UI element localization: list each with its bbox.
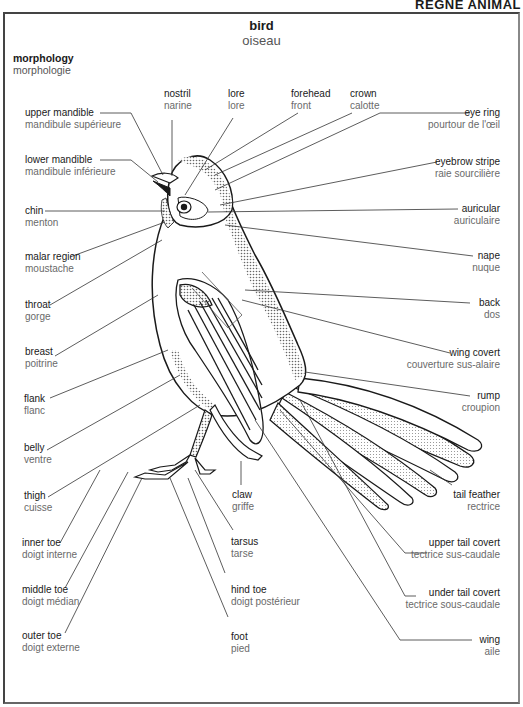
- label-claw: claw griffe: [232, 489, 254, 513]
- beak-lower: [153, 181, 170, 196]
- label-hind-toe: hind toe doigt postérieur: [231, 584, 300, 608]
- label-outer-toe: outer toe doigt externe: [22, 630, 80, 654]
- label-middle-toe: middle toe doigt médian: [22, 584, 79, 608]
- label-auricular: auricular auriculaire: [454, 203, 500, 227]
- label-foot: foot pied: [231, 631, 250, 655]
- label-nostril: nostril narine: [164, 88, 192, 112]
- label-tail-feather: tail feather rectrice: [453, 489, 500, 513]
- label-eyebrow-stripe: eyebrow stripe raie sourcilière: [435, 156, 500, 180]
- label-thigh: thigh cuisse: [24, 490, 52, 514]
- label-upper-tail-covert: upper tail covert tectrice sus-caudale: [411, 537, 500, 561]
- label-malar-region: malar region moustache: [25, 251, 81, 275]
- label-eye-ring: eye ring pourtour de l'œil: [428, 107, 500, 131]
- label-lore: lore lore: [228, 88, 245, 112]
- tail: [270, 378, 482, 510]
- label-wing: wing aile: [479, 634, 500, 658]
- label-breast: breast poitrine: [25, 346, 58, 370]
- label-wing-covert: wing covert couverture sus-alaire: [407, 347, 500, 371]
- label-inner-toe: inner toe doigt interne: [22, 537, 77, 561]
- label-flank: flank flanc: [24, 393, 45, 417]
- label-chin: chin menton: [25, 205, 58, 229]
- label-tarsus: tarsus tarse: [231, 536, 258, 560]
- label-under-tail-covert: under tail covert tectrice sous-caudale: [406, 587, 501, 611]
- label-rump: rump croupion: [462, 390, 500, 414]
- label-upper-mandible: upper mandible mandibule supérieure: [25, 107, 121, 131]
- label-nape: nape nuque: [472, 250, 500, 274]
- label-crown: crown calotte: [350, 88, 379, 112]
- label-back: back dos: [479, 297, 500, 321]
- label-belly: belly ventre: [24, 442, 52, 466]
- label-forehead: forehead front: [291, 88, 330, 112]
- label-lower-mandible: lower mandible mandibule inférieure: [25, 154, 116, 178]
- label-throat: throat gorge: [25, 299, 51, 323]
